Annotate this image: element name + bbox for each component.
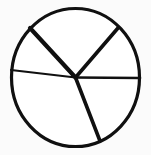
- figure-container: [0, 0, 151, 155]
- radius-right-horizontal-line: [76, 78, 141, 79]
- pie-sector-diagram: [0, 0, 151, 155]
